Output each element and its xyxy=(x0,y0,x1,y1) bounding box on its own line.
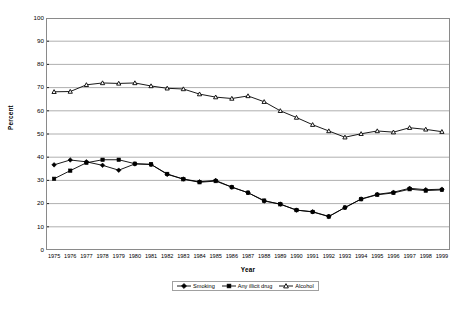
data-point xyxy=(262,199,265,202)
series-line xyxy=(54,83,442,137)
legend-item-any-illicit-drug: Any illicit drug xyxy=(222,282,273,290)
y-axis-title: Percent xyxy=(7,96,14,140)
series-alcohol xyxy=(52,81,444,139)
data-point xyxy=(408,188,411,191)
data-point xyxy=(375,129,379,133)
legend-marker-square-icon xyxy=(222,282,236,290)
data-point xyxy=(391,130,395,134)
data-point xyxy=(246,94,250,98)
y-tick-label: 40 xyxy=(18,154,44,160)
legend-item-smoking: Smoking xyxy=(177,282,215,290)
data-point xyxy=(230,96,234,100)
data-series-group xyxy=(52,81,444,219)
data-point xyxy=(440,188,443,191)
data-point xyxy=(133,81,137,85)
data-point xyxy=(407,126,411,130)
chart-legend: SmokingAny illicit drugAlcohol xyxy=(172,281,319,291)
data-point xyxy=(100,81,104,85)
y-tick-label: 100 xyxy=(18,15,44,21)
data-point xyxy=(311,123,315,127)
data-point xyxy=(68,89,72,93)
data-point xyxy=(133,162,136,165)
data-point xyxy=(279,203,282,206)
y-axis-tick-labels: 1009080706050403020100 xyxy=(12,0,44,318)
data-point xyxy=(424,189,427,192)
data-point xyxy=(230,185,233,188)
y-tick-label: 80 xyxy=(18,61,44,67)
plot-area xyxy=(46,18,450,250)
data-point xyxy=(166,172,169,175)
data-point xyxy=(311,210,314,213)
data-point xyxy=(214,95,218,99)
y-tick-label: 30 xyxy=(18,177,44,183)
legend-item-alcohol: Alcohol xyxy=(279,282,313,290)
data-point xyxy=(197,92,201,96)
y-tick-label: 10 xyxy=(18,224,44,230)
data-point xyxy=(198,181,201,184)
data-point xyxy=(149,84,153,88)
line-chart: 1009080706050403020100 Percent 197519761… xyxy=(0,0,465,318)
data-point xyxy=(359,132,363,136)
data-point xyxy=(116,168,121,173)
data-point xyxy=(262,100,266,104)
legend-label: Smoking xyxy=(193,283,215,289)
y-tick-label: 0 xyxy=(18,247,44,253)
x-axis-title: Year xyxy=(46,266,450,273)
data-point xyxy=(295,208,298,211)
legend-label: Alcohol xyxy=(295,283,313,289)
plot-svg xyxy=(46,18,450,250)
data-point xyxy=(69,169,72,172)
data-point xyxy=(165,86,169,90)
y-tick-label: 50 xyxy=(18,131,44,137)
data-point xyxy=(246,191,249,194)
data-point xyxy=(68,158,73,163)
data-point xyxy=(149,163,152,166)
data-point xyxy=(84,83,88,87)
y-tick-label: 90 xyxy=(18,38,44,44)
y-tick-label: 60 xyxy=(18,108,44,114)
data-point xyxy=(100,163,105,168)
y-tick-label: 20 xyxy=(18,200,44,206)
data-point xyxy=(214,179,217,182)
data-point xyxy=(376,193,379,196)
data-point xyxy=(117,81,121,85)
legend-marker-triangle-icon xyxy=(279,282,293,290)
data-point xyxy=(392,191,395,194)
data-point xyxy=(343,206,346,209)
data-point xyxy=(117,158,120,161)
legend-label: Any illicit drug xyxy=(238,283,273,289)
gridlines xyxy=(46,18,450,250)
data-point xyxy=(182,178,185,181)
data-point xyxy=(52,163,57,168)
series-smoking xyxy=(52,158,444,219)
x-axis-tick-labels: 1975197619771978197919801981198219831984… xyxy=(46,253,450,265)
data-point xyxy=(327,129,331,133)
y-tick-label: 70 xyxy=(18,84,44,90)
data-point xyxy=(440,130,444,134)
data-point xyxy=(101,158,104,161)
data-point xyxy=(85,161,88,164)
data-point xyxy=(52,177,55,180)
series-any-illicit-drug xyxy=(52,158,443,218)
x-tick-label: 1999 xyxy=(431,253,453,259)
data-point xyxy=(278,109,282,113)
data-point xyxy=(327,215,330,218)
data-point xyxy=(343,135,347,139)
legend-marker-diamond-icon xyxy=(177,282,191,290)
series-line xyxy=(54,160,442,216)
data-point xyxy=(52,90,56,94)
data-point xyxy=(294,115,298,119)
data-point xyxy=(359,197,362,200)
data-point xyxy=(424,127,428,131)
